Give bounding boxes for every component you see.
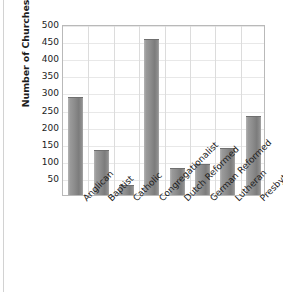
y-tick-label: 50 [26, 174, 59, 184]
y-tick-label: 350 [26, 71, 59, 81]
y-tick-label: 250 [26, 106, 59, 116]
y-tick-label: 300 [26, 88, 59, 98]
bar-chart-figure: Number of Churches 501001502002503003504… [0, 0, 283, 292]
y-tick-label: 400 [26, 54, 59, 64]
y-tick-label: 200 [26, 123, 59, 133]
bar [68, 97, 83, 195]
y-tick-label: 100 [26, 157, 59, 167]
x-axis-tick-labels: AnglicanBaptistCatholicCongregationalist… [0, 196, 283, 292]
y-tick-label: 500 [26, 20, 59, 30]
y-tick-label: 450 [26, 37, 59, 47]
y-tick-label: 150 [26, 140, 59, 150]
y-axis-tick-labels: 50100150200250300350400450500 [26, 25, 59, 196]
